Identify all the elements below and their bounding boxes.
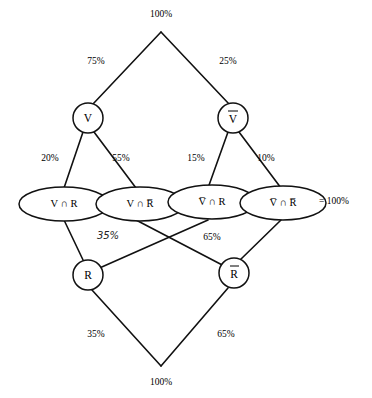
node-v-and-rbar-label: V ∩ R̅ (126, 198, 153, 209)
tree-canvas: V V V ∩ R V ∩ R̅ V̅ ∩ R V̅ ∩ R̅ R R 100%… (0, 0, 372, 398)
root-top-label: 100% (150, 9, 172, 19)
edge-rbar-to-bottom (161, 288, 228, 366)
edge-label-vbar-to-vbar-and-r: 15% (187, 153, 205, 163)
row-total-label: = 100% (319, 196, 349, 206)
edge-vbar-to-vbar-and-r (208, 132, 228, 188)
node-v-label: V (84, 112, 93, 124)
edge-label-rbar-to-bottom: 65% (217, 329, 235, 339)
edge-v-to-v-and-r (64, 132, 83, 188)
node-vbar-and-r-label: V̅ ∩ R (198, 196, 225, 207)
edge-label-v-to-v-and-rbar: 55% (112, 153, 130, 163)
node-vbar-and-rbar-label: V̅ ∩ R̅ (269, 197, 296, 208)
edge-label-vbar-to-vbar-and-rbar: 10% (257, 153, 275, 163)
edge-label-mid-to-rbar: 65% (203, 232, 221, 242)
edge-top-to-v (93, 32, 161, 104)
edge-v-and-r-to-r (64, 220, 84, 262)
edge-label-mid-to-r: 35% (97, 230, 119, 241)
node-r-label: R (84, 269, 92, 281)
edge-label-r-to-bottom: 35% (87, 329, 105, 339)
edge-v-and-rbar-to-rbar (136, 220, 228, 268)
edge-label-top-to-vbar: 25% (219, 56, 237, 66)
node-v-bar-label: V (229, 113, 238, 125)
edge-vbar-and-rbar-to-rbar (240, 220, 281, 260)
edge-r-to-bottom (92, 290, 161, 366)
probability-tree-diagram: V V V ∩ R V ∩ R̅ V̅ ∩ R V̅ ∩ R̅ R R 100%… (0, 0, 372, 398)
node-r-bar-label: R (230, 268, 238, 280)
node-v-and-r-label: V ∩ R (50, 198, 77, 209)
root-bottom-label: 100% (150, 377, 172, 387)
edge-label-v-to-v-and-r: 20% (41, 153, 59, 163)
edge-top-to-vbar (161, 32, 229, 104)
edge-label-top-to-v: 75% (87, 56, 105, 66)
